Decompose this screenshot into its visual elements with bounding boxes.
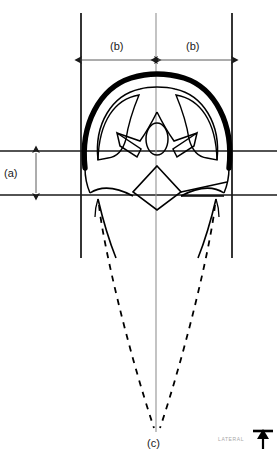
odontoid-diamond [133,166,181,210]
orientation-label: LATERAL [218,437,244,442]
dashed-projection-left [99,205,154,428]
inferior-margin-right [198,199,216,258]
dashed-projection-lines [99,205,215,428]
inferior-notch-right [216,199,219,217]
body-wall-left-upper [85,168,90,193]
convergence-label-c: (c) [147,438,160,449]
orientation-marker-icon [253,429,273,449]
body-wall-right-upper [224,168,229,193]
dimension-label-b-right: (b) [186,41,199,52]
dashed-projection-right [160,205,215,428]
inferior-margin-left [98,199,116,258]
vertebra-drawing [84,74,230,258]
central-foramen-oval [146,123,168,155]
figure-panel: (b) (b) (a) (c) LATERAL [0,0,277,453]
dimension-label-a: (a) [4,168,17,179]
diagram-canvas [0,0,277,453]
inferior-notch-left [95,199,98,217]
dimension-label-b-left: (b) [110,41,123,52]
